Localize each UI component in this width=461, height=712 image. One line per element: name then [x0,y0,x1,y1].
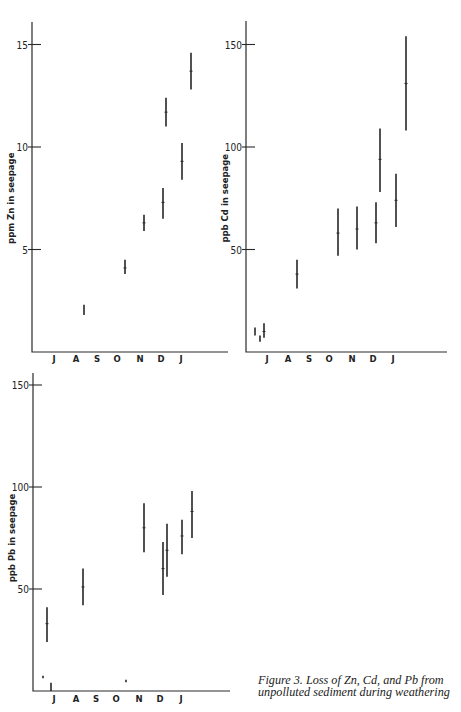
x-month-label: J [51,354,55,364]
y-tick-label: 150 [12,380,29,391]
y-tick-label: 15 [17,40,28,51]
x-month-label: O [113,354,120,364]
y-tick-label: 100 [12,482,29,493]
y-tick-label: 50 [231,245,243,256]
x-month-label: D [157,354,164,364]
x-month-label: S [93,694,99,704]
x-month-label: J [264,354,268,364]
x-month-label: S [94,354,100,364]
x-month-label: J [178,694,182,704]
x-month-label: O [325,354,332,364]
x-month-label: J [51,694,55,704]
cd-chart: 50100150ppb Cd in seepageJASONDJ [220,21,447,364]
pb-chart: 50100150ppb Pb in seepageJASONDJ [7,373,230,704]
x-month-label: J [178,354,182,364]
x-month-label: A [73,694,80,704]
zn-chart: 51015ppm Zn in seepageJASONDJ [6,22,228,364]
caption-line-2: unpolluted sediment during weathering [258,686,461,698]
y-tick-label: 5 [22,245,28,256]
axis-lines [33,373,230,691]
x-month-label: J [390,354,394,364]
y-tick-label: 50 [18,584,30,595]
axis-lines [32,22,228,352]
x-month-label: A [73,354,80,364]
x-month-label: N [136,354,143,364]
x-month-label: N [348,354,355,364]
x-month-label: N [135,694,142,704]
figure-3: 51015ppm Zn in seepageJASONDJ 50100150pp… [0,0,461,712]
x-month-label: O [112,694,119,704]
axis-lines [246,21,447,352]
y-tick-label: 100 [225,142,242,153]
x-month-label: D [369,354,376,364]
y-tick-label: 150 [225,40,242,51]
y-axis-label: ppb Cd in seepage [220,154,230,243]
y-axis-label: ppm Zn in seepage [6,152,16,244]
y-axis-label: ppb Pb in seepage [7,493,17,582]
x-month-label: D [156,694,163,704]
y-tick-label: 10 [17,142,29,153]
x-month-label: S [306,354,312,364]
x-month-label: A [285,354,292,364]
figure-caption: Figure 3. Loss of Zn, Cd, and Pb from un… [258,674,461,698]
